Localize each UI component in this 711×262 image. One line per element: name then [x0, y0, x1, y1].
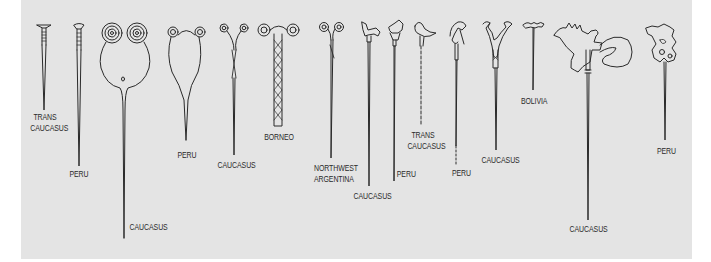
- label-line: TRANS: [30, 112, 60, 123]
- pin-2-nail-icon: [74, 24, 84, 167]
- pin-6-braided-icon: [258, 24, 299, 126]
- label-line: PERU: [657, 146, 675, 157]
- label-pin-5: CAUCASUS: [218, 160, 251, 171]
- pin-10-bird-icon: [415, 22, 436, 126]
- pin-12-forked-scroll-icon: [483, 22, 512, 150]
- label-line: CAUCASUS: [570, 224, 603, 235]
- label-line: CAUCASUS: [354, 191, 387, 202]
- label-line: BOLIVIA: [521, 96, 547, 107]
- pins-illustration: [0, 0, 711, 262]
- label-line: CAUCASUS: [130, 222, 163, 233]
- pin-13-ornate-icon: [523, 23, 544, 91]
- pin-1-nail-icon: [37, 25, 51, 110]
- pin-7-spiral-icon: [320, 23, 344, 159]
- label-pin-10: TRANS CAUCASUS: [407, 130, 438, 152]
- pin-14-axe-antler-icon: [554, 23, 632, 220]
- label-line: BORNEO: [263, 132, 294, 143]
- label-pin-7: NORTHWEST ARGENTINA: [314, 163, 350, 185]
- label-line: NORTHWEST: [314, 163, 350, 174]
- label-line: PERU: [397, 169, 413, 180]
- pin-9-quadruped-icon: [389, 20, 403, 181]
- label-pin-2: PERU: [65, 169, 93, 180]
- label-line: CAUCASUS: [407, 141, 438, 152]
- label-line: CAUCASUS: [218, 160, 251, 171]
- label-pin-15: PERU: [657, 146, 675, 157]
- label-pin-1: TRANS CAUCASUS: [30, 112, 60, 134]
- label-line: PERU: [452, 168, 470, 179]
- pin-15-openwork-icon: [646, 24, 676, 140]
- label-pin-8: CAUCASUS: [354, 191, 387, 202]
- label-pin-9: PERU: [397, 169, 413, 180]
- label-line: TRANS: [407, 130, 438, 141]
- label-pin-13: BOLIVIA: [521, 96, 547, 107]
- pin-8-horse-icon: [362, 22, 380, 186]
- pin-4-spiral-loop-icon: [168, 27, 205, 140]
- pin-11-bird-beaked-icon: [450, 22, 466, 166]
- label-pin-6: BORNEO: [263, 132, 294, 143]
- label-line: CAUCASUS: [30, 123, 60, 134]
- label-pin-12: CAUCASUS: [482, 155, 515, 166]
- pin-3-double-spiral-icon: [100, 23, 150, 238]
- label-pin-3: CAUCASUS: [130, 222, 163, 233]
- label-line: ARGENTINA: [314, 174, 350, 185]
- pin-5-twisted-icon: [220, 24, 248, 155]
- label-line: PERU: [173, 150, 201, 161]
- label-pin-4: PERU: [173, 150, 201, 161]
- label-pin-11: PERU: [452, 168, 470, 179]
- label-line: CAUCASUS: [482, 155, 515, 166]
- label-line: PERU: [65, 169, 93, 180]
- label-pin-14: CAUCASUS: [570, 224, 603, 235]
